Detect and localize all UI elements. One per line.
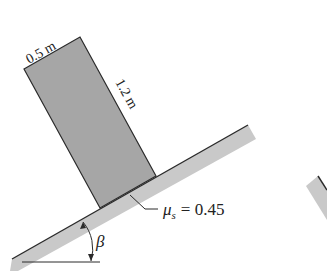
block <box>24 37 156 208</box>
diagram-canvas: 0.5 m 1.2 m β μs= 0.45 <box>0 0 327 271</box>
friction-label: μs= 0.45 <box>162 200 224 221</box>
angle-label: β <box>95 232 105 251</box>
friction-symbol: μ <box>162 200 172 219</box>
friction-value: = 0.45 <box>181 200 225 219</box>
adjacent-figure-incline <box>306 176 327 220</box>
friction-subscript: s <box>172 209 176 221</box>
arrowhead-bottom <box>88 254 94 261</box>
